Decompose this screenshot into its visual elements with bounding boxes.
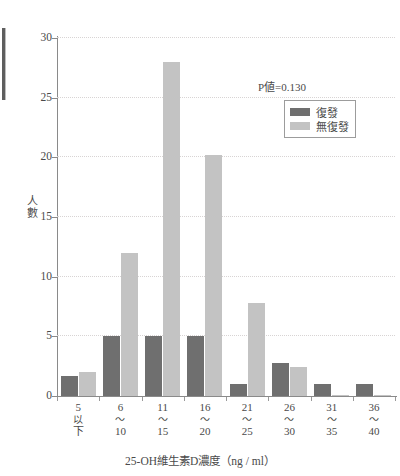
bar-group	[99, 38, 141, 396]
x-category-label-line: 36	[353, 401, 395, 414]
x-category-label-line: 〜	[311, 414, 353, 425]
legend-swatch-relapse	[290, 108, 310, 116]
x-category-label-line: 〜	[142, 414, 184, 425]
y-axis-title-char-1: 人	[25, 196, 39, 208]
bar	[187, 336, 204, 396]
x-category-label: 31〜35	[311, 401, 353, 437]
y-tick-mark-10	[52, 277, 57, 278]
x-axis-line	[57, 396, 397, 397]
bar	[272, 363, 289, 396]
y-tick-label-20: 20	[26, 151, 52, 163]
x-category-label: 11〜15	[142, 401, 184, 437]
vitamin-d-histogram-figure: 人 數 5以下6〜1011〜1516〜2021〜2526〜3031〜3536〜4…	[0, 0, 400, 476]
bar	[205, 155, 222, 396]
bar-group	[184, 38, 226, 396]
x-category-label-line: 〜	[99, 414, 141, 425]
x-category-label-line: 40	[353, 425, 395, 438]
y-tick-mark-0	[52, 396, 57, 397]
x-category-label: 5以下	[57, 401, 99, 437]
x-category-label-line: 11	[142, 401, 184, 414]
legend-item: 復發	[290, 105, 349, 119]
bar-group	[142, 38, 184, 396]
x-category-label-line: 〜	[353, 414, 395, 425]
plot-area	[57, 38, 395, 396]
y-tick-label-30: 30	[26, 32, 52, 44]
bar	[314, 384, 331, 396]
x-category-label-line: 15	[142, 425, 184, 438]
x-category-label: 6〜10	[99, 401, 141, 437]
x-tick-mark-8	[395, 397, 396, 401]
x-category-label-line: 31	[311, 401, 353, 414]
y-tick-label-10: 10	[26, 271, 52, 283]
legend-swatch-norelapse	[290, 122, 310, 130]
bar-group	[311, 38, 353, 396]
bar	[290, 367, 307, 396]
x-axis-title: 25-OH維生素D濃度（ng / ml）	[0, 452, 400, 468]
y-tick-mark-15	[52, 217, 57, 218]
y-tick-mark-20	[52, 157, 57, 158]
x-category-label: 16〜20	[184, 401, 226, 437]
x-category-label-line: 35	[311, 425, 353, 438]
x-category-label: 26〜30	[268, 401, 310, 437]
bar	[374, 395, 391, 396]
x-category-label-line: 30	[268, 425, 310, 438]
bar	[121, 253, 138, 396]
x-category-label-line: 〜	[226, 414, 268, 425]
y-tick-label-25: 25	[26, 92, 52, 104]
x-category-label-line: 21	[226, 401, 268, 414]
x-category-label-line: 10	[99, 425, 141, 438]
legend-item: 無復發	[290, 119, 349, 133]
bar	[230, 384, 247, 396]
x-category-label-line: 20	[184, 425, 226, 438]
x-category-label: 36〜40	[353, 401, 395, 437]
x-category-label: 21〜25	[226, 401, 268, 437]
bar	[356, 384, 373, 396]
y-tick-mark-5	[52, 336, 57, 337]
x-category-label-line: 25	[226, 425, 268, 438]
bar	[103, 336, 120, 396]
bar	[163, 62, 180, 396]
y-tick-mark-25	[52, 98, 57, 99]
p-value-annotation: P値=0.130	[258, 78, 306, 94]
x-category-label-line: 〜	[184, 414, 226, 425]
bar	[145, 336, 162, 396]
x-category-label-line: 26	[268, 401, 310, 414]
y-tick-label-0: 0	[26, 390, 52, 402]
x-category-label-line: 16	[184, 401, 226, 414]
x-category-label-line: 6	[99, 401, 141, 414]
x-category-label-line: 5	[57, 401, 99, 414]
bar-group	[353, 38, 395, 396]
bar	[248, 303, 265, 396]
y-tick-mark-30	[52, 38, 57, 39]
x-category-label-line: 以	[57, 414, 99, 425]
chart-legend: 復發無復發	[284, 100, 356, 138]
x-category-label-line: 〜	[268, 414, 310, 425]
x-category-label-line: 下	[57, 425, 99, 438]
bar	[61, 376, 78, 396]
y-tick-label-15: 15	[26, 211, 52, 223]
bar	[79, 372, 96, 396]
legend-label: 無復發	[316, 118, 349, 134]
bar	[332, 395, 349, 396]
y-tick-label-5: 5	[26, 330, 52, 342]
bar-group	[57, 38, 99, 396]
